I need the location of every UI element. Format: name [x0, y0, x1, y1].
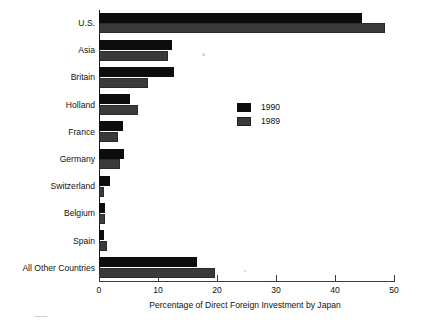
x-tick [276, 275, 277, 281]
category-label: Holland [0, 92, 95, 119]
scan-speckle [202, 53, 205, 56]
bar-group: Germany [0, 146, 422, 173]
chart-legend: 1990 1989 [237, 100, 280, 128]
x-tick-label: 30 [256, 285, 296, 295]
x-tick-label: 10 [138, 285, 178, 295]
category-label: Spain [0, 228, 95, 255]
swatch-1990-icon [237, 103, 251, 112]
bar-1989 [99, 132, 118, 142]
x-tick-label: 50 [374, 285, 414, 295]
scan-speckle [35, 316, 47, 317]
x-tick [217, 275, 218, 281]
bar-1990 [99, 203, 105, 213]
bar-1990 [99, 176, 110, 186]
scan-speckle [244, 270, 246, 272]
bar-1990 [99, 67, 174, 77]
bar-1989 [99, 159, 120, 169]
bar-group: All Other Countries [0, 255, 422, 282]
legend-label-1989: 1989 [261, 116, 280, 126]
bar-group: Holland [0, 92, 422, 119]
bar-1989 [99, 241, 107, 251]
bar-group: Britain [0, 64, 422, 91]
x-axis-title: Percentage of Direct Foreign Investment … [0, 300, 422, 310]
x-tick [394, 275, 395, 281]
bar-group: Asia [0, 37, 422, 64]
category-label: France [0, 119, 95, 146]
bar-1990 [99, 230, 104, 240]
swatch-1989-icon [237, 117, 251, 126]
legend-label-1990: 1990 [261, 102, 280, 112]
bar-1990 [99, 40, 172, 50]
bar-1989 [99, 23, 385, 33]
category-label: Asia [0, 37, 95, 64]
category-label: Britain [0, 64, 95, 91]
bar-group: France [0, 119, 422, 146]
bar-1990 [99, 94, 130, 104]
bar-1990 [99, 149, 124, 159]
category-label: All Other Countries [0, 255, 95, 282]
bar-1990 [99, 121, 123, 131]
x-tick [99, 275, 100, 281]
bar-1989 [99, 51, 168, 61]
bar-1989 [99, 78, 148, 88]
category-label: Belgium [0, 200, 95, 227]
category-label: Switzerland [0, 173, 95, 200]
bar-group: Switzerland [0, 173, 422, 200]
bar-1990 [99, 257, 197, 267]
x-tick-label: 20 [197, 285, 237, 295]
bar-group: Belgium [0, 200, 422, 227]
category-label: U.S. [0, 10, 95, 37]
bar-1989 [99, 214, 105, 224]
legend-item-1990: 1990 [237, 100, 280, 114]
x-tick [158, 275, 159, 281]
legend-item-1989: 1989 [237, 114, 280, 128]
bar-1990 [99, 13, 362, 23]
x-tick-label: 0 [79, 285, 119, 295]
x-tick [335, 275, 336, 281]
bar-chart: U.S.AsiaBritainHollandFranceGermanySwitz… [0, 0, 422, 325]
bar-1989 [99, 105, 138, 115]
bar-group: U.S. [0, 10, 422, 37]
bar-1989 [99, 187, 104, 197]
x-tick-label: 40 [315, 285, 355, 295]
category-label: Germany [0, 146, 95, 173]
bar-group: Spain [0, 228, 422, 255]
